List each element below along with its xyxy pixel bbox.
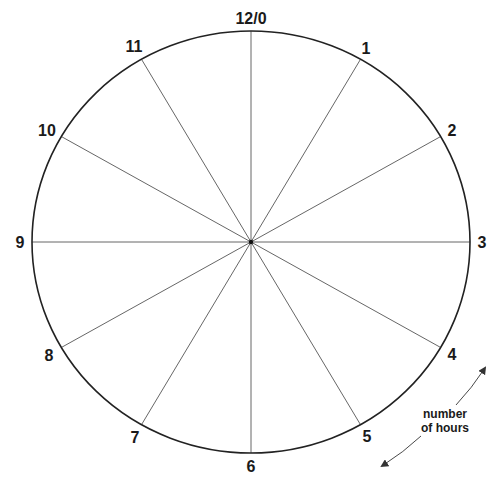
spoke-hour-8 — [61, 242, 251, 348]
arrow-lower-icon — [382, 436, 421, 466]
center-point — [249, 240, 253, 244]
spoke-hour-10 — [61, 137, 251, 243]
spoke-hour-1 — [251, 59, 361, 242]
spoke-hour-11 — [142, 59, 252, 242]
annotation-line2: of hours — [421, 421, 469, 435]
hour-label-2: 2 — [448, 122, 457, 139]
clock-diagram: 12/01234567891011 number of hours — [0, 0, 497, 485]
hour-label-8: 8 — [45, 347, 54, 364]
spoke-hour-5 — [251, 242, 361, 425]
hour-label-6: 6 — [247, 458, 256, 475]
spoke-hour-4 — [251, 242, 441, 348]
hour-label-10: 10 — [38, 122, 56, 139]
hour-label-11: 11 — [126, 38, 143, 55]
annotation-line1: number — [423, 407, 467, 421]
spoke-hour-7 — [142, 242, 252, 425]
hour-label-9: 9 — [16, 234, 25, 251]
hour-label-7: 7 — [131, 429, 140, 446]
number-of-hours-annotation: number of hours — [382, 368, 485, 466]
hour-label-4: 4 — [448, 346, 457, 363]
spoke-hour-2 — [251, 137, 441, 243]
arrow-upper-icon — [456, 368, 485, 405]
hour-label-3: 3 — [478, 234, 487, 251]
hour-label-1: 1 — [362, 40, 371, 57]
hour-label-5: 5 — [363, 428, 372, 445]
hour-label-0: 12/0 — [235, 10, 266, 27]
